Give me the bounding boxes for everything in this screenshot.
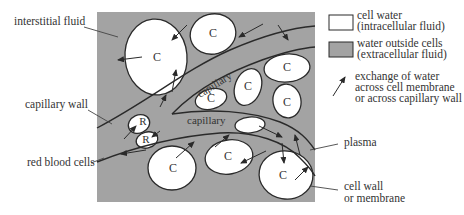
svg-text:C: C [224,149,232,163]
capillary-label-lower: capillary [187,114,226,126]
legend-extracellular-line2: (extracellular fluid) [357,48,447,61]
legend-exchange-line3: or across capillary wall [355,92,462,105]
svg-text:R: R [142,133,150,145]
label-capillary-wall: capillary wall [25,98,88,111]
label-plasma: plasma [344,136,377,149]
svg-text:C: C [283,60,291,74]
legend-swatch-intracellular [329,15,353,30]
label-cell-wall-2: or membrane [344,192,405,204]
svg-text:C: C [153,50,161,64]
svg-text:C: C [283,95,291,109]
label-interstitial-fluid: interstitial fluid [14,15,85,27]
svg-text:C: C [209,26,217,40]
legend: cell water (intracellular fluid) water o… [329,9,462,105]
svg-text:C: C [169,161,177,175]
legend-swatch-extracellular [329,42,353,57]
label-cell-wall-1: cell wall [344,180,383,192]
legend-arrow-icon [333,77,345,96]
svg-text:C: C [279,168,287,182]
water-exchange-diagram: C C C C C C C C C R R capillary capillar… [0,0,464,215]
legend-intracellular-line2: (intracellular fluid) [357,20,445,33]
svg-text:R: R [139,115,147,127]
label-red-blood-cells: red blood cells [27,156,95,168]
svg-text:C: C [244,79,252,93]
